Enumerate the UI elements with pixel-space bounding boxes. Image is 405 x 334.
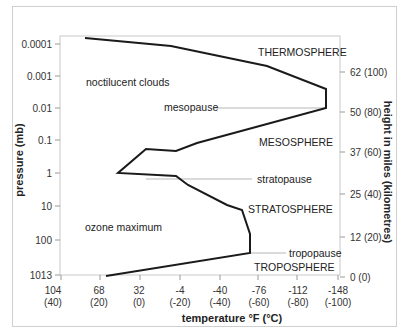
y-tick: 100 xyxy=(35,235,52,246)
y-tick: 0.01 xyxy=(33,103,53,114)
x-tick-f: 68 xyxy=(93,285,105,296)
y2-tick: 37 (60) xyxy=(350,147,382,158)
x-tick-c: (-60) xyxy=(248,297,269,308)
y-axis-left: 0.0001 0.001 0.01 0.1 1 10 100 1013 xyxy=(21,39,60,281)
y2-axis-title: height in miles (kilometres) xyxy=(382,101,394,244)
y-tick: 0.0001 xyxy=(21,39,52,50)
label-thermosphere: THERMOSPHERE xyxy=(258,46,347,58)
x-axis: 104 (40) 68 (20) 32 (0) -4 (-20) -40 (-4… xyxy=(44,275,351,308)
label-noctilucent-clouds: noctilucent clouds xyxy=(86,76,169,88)
y2-tick: 62 (100) xyxy=(350,67,387,78)
y-axis-title: pressure (mb) xyxy=(13,123,25,197)
x-tick-f: 104 xyxy=(45,285,62,296)
y-tick: 0.1 xyxy=(38,135,52,146)
y-tick: 1013 xyxy=(30,270,53,281)
x-tick-f: -40 xyxy=(213,285,228,296)
y-tick: 10 xyxy=(41,201,53,212)
y-tick: 1 xyxy=(46,168,52,179)
label-stratosphere: STRATOSPHERE xyxy=(248,203,333,215)
label-ozone-maximum: ozone maximum xyxy=(85,221,162,233)
label-mesopause: mesopause xyxy=(164,101,218,113)
y2-tick: 50 (80) xyxy=(350,107,382,118)
x-tick-c: (-40) xyxy=(209,297,230,308)
x-tick-f: -76 xyxy=(252,285,267,296)
atmosphere-chart: 0.0001 0.001 0.01 0.1 1 10 100 1013 62 (… xyxy=(0,0,405,334)
x-axis-title: temperature °F (°C) xyxy=(182,312,283,324)
label-troposphere: TROPOSPHERE xyxy=(254,261,335,273)
label-tropopause: tropopause xyxy=(289,247,342,259)
x-tick-f: 32 xyxy=(133,285,145,296)
y-tick: 0.001 xyxy=(27,71,52,82)
y2-tick: 0 (0) xyxy=(350,272,371,283)
x-tick-f: -148 xyxy=(328,285,348,296)
x-tick-c: (0) xyxy=(133,297,145,308)
x-tick-c: (-80) xyxy=(287,297,308,308)
y-axis-right: 62 (100) 50 (80) 37 (60) 25 (40) 12 (20)… xyxy=(340,67,387,283)
y2-tick: 25 (40) xyxy=(350,189,382,200)
label-mesosphere: MESOSPHERE xyxy=(259,136,333,148)
plot-area xyxy=(60,36,340,275)
x-tick-c: (20) xyxy=(90,297,108,308)
x-tick-f: -4 xyxy=(176,285,185,296)
x-tick-c: (40) xyxy=(44,297,62,308)
y2-tick: 12 (20) xyxy=(350,232,382,243)
temperature-profile-line xyxy=(85,38,326,276)
x-tick-f: -112 xyxy=(288,285,308,296)
x-tick-c: (-100) xyxy=(325,297,352,308)
label-stratopause: stratopause xyxy=(257,173,312,185)
x-tick-c: (-20) xyxy=(169,297,190,308)
